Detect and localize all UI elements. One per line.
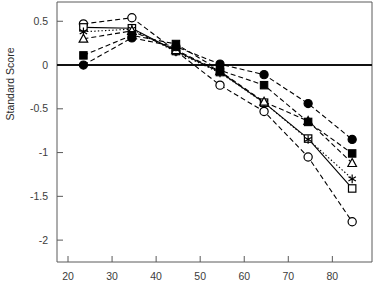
y-tick-label: -0.5 <box>30 102 48 114</box>
x-axis-ticks <box>68 256 332 262</box>
data-point-star <box>348 175 355 184</box>
y-tick-label: 0 <box>42 59 48 71</box>
y-tick-label: -1 <box>39 146 48 158</box>
data-point-filled-circle <box>128 34 136 42</box>
data-point-filled-circle <box>260 71 268 79</box>
data-point-filled-circle <box>348 135 356 143</box>
x-axis-tick-labels: 20304050607080 <box>62 270 338 282</box>
x-tick-label: 20 <box>62 270 74 282</box>
data-point-filled-square <box>304 118 311 125</box>
data-point-open-circle <box>348 218 356 226</box>
x-tick-label: 50 <box>194 270 206 282</box>
series-markers-group <box>79 14 356 226</box>
y-axis-label: Standard Score <box>4 47 16 120</box>
data-point-filled-square <box>80 52 87 59</box>
data-point-filled-square <box>260 81 267 88</box>
chart-container: 0.50-0.5-1-1.5-2 20304050607080 Standard… <box>0 0 383 291</box>
data-point-filled-square <box>348 150 355 157</box>
axis-frame <box>57 2 372 262</box>
data-point-filled-circle <box>79 61 87 69</box>
x-tick-label: 80 <box>327 270 339 282</box>
standard-score-line-chart: 0.50-0.5-1-1.5-2 20304050607080 Standard… <box>0 0 383 291</box>
x-tick-label: 40 <box>150 270 162 282</box>
x-tick-label: 60 <box>238 270 250 282</box>
data-point-open-square <box>348 185 355 192</box>
series-line-open-square <box>83 27 352 188</box>
data-point-open-circle <box>128 14 136 22</box>
y-tick-label: 0.5 <box>33 15 48 27</box>
y-axis-tick-labels: 0.50-0.5-1-1.5-2 <box>30 15 48 246</box>
y-tick-label: -2 <box>39 234 48 246</box>
data-point-open-circle <box>260 107 268 115</box>
data-point-open-circle <box>304 153 312 161</box>
data-point-filled-circle <box>216 60 224 68</box>
data-point-open-circle <box>216 81 224 89</box>
plot-frame <box>57 2 372 262</box>
y-tick-label: -1.5 <box>30 190 48 202</box>
y-axis-ticks <box>57 21 63 240</box>
x-tick-label: 30 <box>106 270 118 282</box>
x-tick-label: 70 <box>282 270 294 282</box>
data-point-filled-circle <box>304 99 312 107</box>
data-point-filled-circle <box>172 43 180 51</box>
